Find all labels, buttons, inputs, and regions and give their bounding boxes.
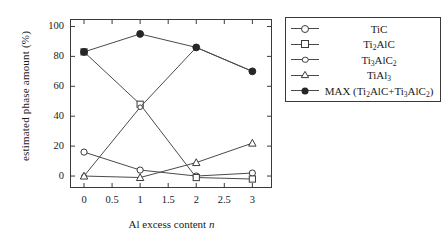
legend-item-tic[interactable]: TiC xyxy=(286,21,442,36)
legend-label-max: MAX (Ti2AlC+Ti3AlC2) xyxy=(320,85,442,97)
data-point-TiAl3 xyxy=(249,139,256,146)
data-point-Ti2AlC xyxy=(249,176,255,182)
legend-marker-open-diamond-icon xyxy=(290,52,320,67)
legend-item-ti3alc2[interactable]: Ti3AlC2 xyxy=(286,52,442,67)
data-point-Ti2AlC xyxy=(193,174,199,180)
data-point-MAX (Ti2AlC+Ti3AlC2) xyxy=(193,44,200,51)
legend-item-tial3[interactable]: TiAl3 xyxy=(286,68,442,83)
series-line-Ti3AlC2 xyxy=(84,47,252,176)
legend-marker-open-triangle-icon xyxy=(290,68,320,83)
legend-marker-open-square-icon xyxy=(290,37,320,52)
data-point-TiC xyxy=(81,149,87,155)
data-point-TiC xyxy=(137,167,143,173)
legend-item-ti2alc[interactable]: Ti2AlC xyxy=(286,37,442,52)
figure: estimated phase amount (%) Al excess con… xyxy=(0,0,448,245)
data-point-TiC xyxy=(249,170,255,176)
legend-item-max[interactable]: MAX (Ti2AlC+Ti3AlC2) xyxy=(286,83,442,98)
legend-label-ti3alc2: Ti3AlC2 xyxy=(320,54,442,66)
data-point-Ti3AlC2 xyxy=(138,105,143,110)
series-line-MAX (Ti2AlC+Ti3AlC2) xyxy=(84,34,252,71)
legend-marker-open-circle-icon xyxy=(290,21,320,36)
legend-label-ti2alc: Ti2AlC xyxy=(320,38,442,50)
legend-label-tial3: TiAl3 xyxy=(320,69,442,81)
series-line-TiC xyxy=(84,152,252,176)
legend: TiCTi2AlCTi3AlC2TiAl3MAX (Ti2AlC+Ti3AlC2… xyxy=(285,17,441,102)
legend-label-tic: TiC xyxy=(320,23,442,35)
data-point-MAX (Ti2AlC+Ti3AlC2) xyxy=(81,49,88,56)
data-point-MAX (Ti2AlC+Ti3AlC2) xyxy=(137,31,144,38)
data-point-MAX (Ti2AlC+Ti3AlC2) xyxy=(249,68,256,75)
legend-marker-filled-circle-icon xyxy=(290,83,320,98)
